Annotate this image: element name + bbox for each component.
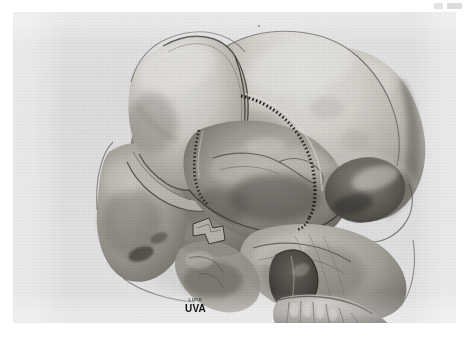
signature-credit: LUCE bbox=[185, 298, 206, 302]
artist-signature: LUCE UVA bbox=[185, 298, 206, 314]
illustration-plate: LUCE UVA bbox=[13, 12, 456, 323]
scanner-edge-mark-icon bbox=[434, 3, 464, 9]
signature-institution: UVA bbox=[185, 304, 206, 314]
scanned-page: LUCE UVA bbox=[0, 0, 470, 337]
scan-speck bbox=[258, 25, 260, 27]
skull-illustration bbox=[13, 12, 456, 323]
